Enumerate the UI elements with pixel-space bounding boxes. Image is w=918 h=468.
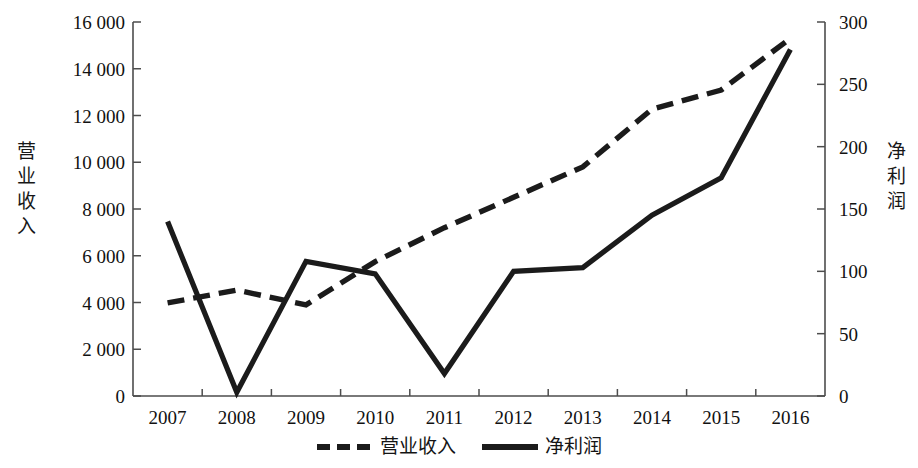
legend-swatch-solid-icon	[482, 444, 538, 450]
plot-area	[0, 0, 918, 468]
legend-entry-1[interactable]: 净利润	[482, 437, 602, 456]
legend-entry-0[interactable]: 营业收入	[317, 437, 456, 456]
data-series	[168, 38, 791, 392]
chart-legend: 营业收入净利润	[0, 437, 918, 456]
dual-axis-line-chart: 营业收入 净利润 02 0004 0006 0008 00010 00012 0…	[0, 0, 918, 468]
series-line-0	[168, 38, 791, 304]
legend-swatch-dashed-icon	[317, 444, 373, 450]
series-line-1	[168, 49, 791, 392]
legend-label-0: 营业收入	[380, 437, 456, 456]
axis-lines	[133, 22, 825, 396]
legend-label-1: 净利润	[545, 437, 602, 456]
